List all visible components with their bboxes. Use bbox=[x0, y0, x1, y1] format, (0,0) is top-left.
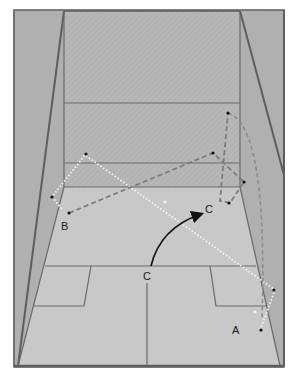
label-c-start: C bbox=[143, 270, 151, 282]
court-svg: B A C C bbox=[0, 0, 295, 387]
point-left-front bbox=[84, 152, 87, 155]
label-b: B bbox=[61, 220, 68, 232]
point-floor-right bbox=[227, 201, 230, 204]
path-a-arrow-mid bbox=[164, 201, 167, 204]
point-a bbox=[259, 328, 262, 331]
point-front-high bbox=[226, 111, 229, 114]
front-wall bbox=[64, 11, 240, 187]
point-left-wall bbox=[50, 195, 53, 198]
point-front-right bbox=[211, 151, 214, 154]
label-c-end: C bbox=[205, 203, 213, 215]
point-right-wall-low bbox=[272, 288, 275, 291]
squash-court-diagram: B A C C bbox=[0, 0, 295, 387]
point-right-wall bbox=[242, 180, 245, 183]
label-a: A bbox=[232, 324, 240, 336]
point-b bbox=[67, 211, 70, 214]
path-a-arrow bbox=[254, 311, 257, 314]
